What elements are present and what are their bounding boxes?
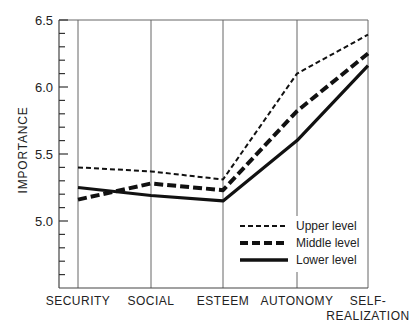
y-tick-label: 5.5 [35,147,53,162]
y-tick-label: 6.0 [35,80,53,95]
legend-label-lower: Lower level [296,253,357,267]
legend-label-upper: Upper level [296,219,357,233]
x-category-label: ESTEEM [197,294,249,308]
y-tick-label: 5.0 [35,214,53,229]
y-axis: 5.05.56.06.5 [35,13,68,288]
y-tick-label: 6.5 [35,13,53,28]
legend-label-middle: Middle level [296,236,359,250]
line-chart: 5.05.56.06.5 SECURITYSOCIALESTEEMAUTONOM… [0,0,417,335]
x-category-label: SOCIAL [127,294,174,308]
legend: Upper level Middle level Lower level [234,216,366,272]
x-category-label: AUTONOMY [260,294,333,308]
x-axis: SECURITYSOCIALESTEEMAUTONOMYSELF-REALIZA… [46,288,410,323]
x-category-label: SELF- [350,294,387,308]
x-category-label: SECURITY [46,294,111,308]
x-category-label: REALIZATION [326,309,409,323]
y-axis-title: IMPORTANCE [16,107,30,194]
